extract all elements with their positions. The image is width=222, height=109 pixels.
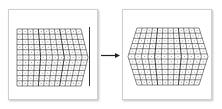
grid-column-line (178, 28, 181, 85)
grid-cell-dot (148, 35, 149, 36)
grid-cell-dot (77, 52, 78, 53)
grid-cell-dot (31, 52, 32, 53)
grid-cell-dot (73, 57, 74, 58)
grid-column-line (161, 28, 163, 85)
grid-cell-dot (197, 30, 198, 31)
grid-cell-dot (170, 82, 171, 83)
grid-cell-dot (197, 56, 198, 57)
right-grid (128, 28, 208, 85)
grid-cell-dot (48, 62, 49, 63)
grid-cell-dot (36, 36, 37, 37)
grid-cell-dot (19, 47, 20, 48)
grid-cell-dot (194, 71, 195, 72)
grid-cell-dot (137, 56, 138, 57)
grid-cell-dot (170, 77, 171, 78)
grid-cell-dot (19, 72, 20, 73)
grid-cell-dot (135, 71, 136, 72)
grid-cell-dot (153, 77, 154, 78)
grid-cell-dot (204, 56, 205, 57)
grid-cell-dot (131, 56, 132, 57)
grid-cell-dot (145, 61, 146, 62)
grid-cell-dot (153, 71, 154, 72)
grid-cell-dot (74, 36, 75, 37)
grid-cell-dot (47, 78, 48, 79)
grid-cell-dot (37, 52, 38, 53)
grid-cell-dot (176, 35, 177, 36)
grid-cell-dot (189, 46, 190, 47)
grid-cell-dot (77, 62, 78, 63)
grid-cell-dot (58, 36, 59, 37)
grid-cell-dot (37, 57, 38, 58)
grid-cell-dot (159, 77, 160, 78)
grid-cell-dot (19, 41, 20, 42)
grid-cell-dot (187, 77, 188, 78)
grid-cell-dot (48, 52, 49, 53)
grid-cell-dot (47, 36, 48, 37)
grid-cell-dot (176, 40, 177, 41)
grid-cell-dot (159, 35, 160, 36)
grid-cell-dot (65, 47, 66, 48)
grid-cell-dot (191, 82, 192, 83)
grid-cell-dot (36, 78, 37, 79)
grid-cell-dot (140, 66, 141, 67)
grid-cell-dot (164, 46, 165, 47)
grid-cell-dot (139, 61, 140, 62)
grid-cell-dot (31, 57, 32, 58)
grid-cell-dot (177, 61, 178, 62)
grid-cell-dot (41, 36, 42, 37)
grid-cell-dot (83, 52, 84, 53)
grid-cell-dot (146, 66, 147, 67)
grid-cell-dot (158, 46, 159, 47)
grid-cell-dot (19, 78, 20, 79)
grid-cell-dot (200, 71, 201, 72)
grid-cell-dot (55, 57, 56, 58)
grid-cell-dot (30, 31, 31, 32)
grid-cell-dot (69, 78, 70, 79)
grid-cell-dot (41, 31, 42, 32)
grid-cell-dot (52, 78, 53, 79)
grid-cell-dot (170, 30, 171, 31)
grid-cell-dot (37, 62, 38, 63)
grid-cell-dot (72, 62, 73, 63)
grid-cell-dot (19, 36, 20, 37)
grid-cell-dot (67, 57, 68, 58)
grid-cell-dot (190, 51, 191, 52)
grid-cell-dot (192, 77, 193, 78)
grid-cell-dot (164, 61, 165, 62)
grid-cell-dot (82, 47, 83, 48)
grid-cell-dot (142, 35, 143, 36)
grid-cell-dot (60, 62, 61, 63)
grid-cell-dot (132, 61, 133, 62)
grid-column-line (173, 28, 175, 85)
grid-cell-dot (46, 31, 47, 32)
grid-cell-dot (198, 77, 199, 78)
grid-cell-dot (171, 51, 172, 52)
grid-cell-dot (42, 41, 43, 42)
grid-cell-dot (66, 62, 67, 63)
grid-cell-dot (153, 35, 154, 36)
grid-cell-dot (81, 41, 82, 42)
grid-cell-dot (186, 82, 187, 83)
grid-cell-dot (189, 66, 190, 67)
grid-column-line (155, 28, 158, 85)
grid-cell-dot (188, 71, 189, 72)
grid-cell-dot (181, 77, 182, 78)
grid-column-line (38, 29, 40, 86)
grid-cell-dot (70, 72, 71, 73)
grid-cell-dot (80, 78, 81, 79)
grid-column-line (199, 28, 208, 85)
grid-cell-dot (157, 56, 158, 57)
grid-cell-dot (19, 57, 20, 58)
grid-column-line (22, 29, 23, 86)
grid-column-line (60, 29, 65, 86)
grid-cell-dot (43, 62, 44, 63)
grid-cell-dot (30, 72, 31, 73)
grid-cell-dot (58, 78, 59, 79)
grid-cell-dot (83, 62, 84, 63)
grid-cell-dot (138, 30, 139, 31)
grid-cell-dot (170, 35, 171, 36)
grid-cell-dot (61, 57, 62, 58)
grid-cell-dot (36, 67, 37, 68)
grid-cell-dot (159, 71, 160, 72)
grid-cell-dot (159, 82, 160, 83)
